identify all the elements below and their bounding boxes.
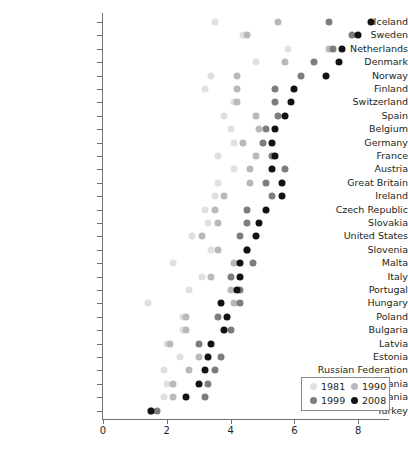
data-point xyxy=(211,206,218,213)
legend-label: 2008 xyxy=(362,396,386,406)
y-axis-tick-mark xyxy=(97,370,102,371)
data-point xyxy=(230,139,237,146)
data-point xyxy=(281,166,288,173)
x-axis-tick-mark xyxy=(167,420,168,424)
data-point xyxy=(262,206,269,213)
legend-entry-1981[interactable]: 1981 xyxy=(310,382,345,392)
y-axis-tick-mark xyxy=(97,303,102,304)
data-point xyxy=(237,273,244,280)
data-point xyxy=(253,112,260,119)
data-point xyxy=(285,45,292,52)
y-axis-tick-mark xyxy=(97,384,102,385)
data-point xyxy=(186,287,193,294)
y-axis-tick-mark xyxy=(97,330,102,331)
dot-plot-chart: IcelandSwedenNetherlandsDenmarkNorwayFin… xyxy=(0,0,408,458)
y-axis-tick-mark xyxy=(97,196,102,197)
data-point xyxy=(176,354,183,361)
y-axis-tick-mark xyxy=(97,116,102,117)
data-point xyxy=(160,367,167,374)
data-point xyxy=(272,126,279,133)
legend-label: 1990 xyxy=(362,382,386,392)
data-point xyxy=(214,220,221,227)
y-axis-tick-mark xyxy=(97,22,102,23)
data-point xyxy=(205,380,212,387)
data-point xyxy=(182,394,189,401)
y-axis-tick-mark xyxy=(97,317,102,318)
legend-label: 1999 xyxy=(321,396,345,406)
x-axis-tick-mark xyxy=(103,420,104,424)
x-axis-tick-label: 6 xyxy=(291,426,297,436)
data-point xyxy=(281,59,288,66)
data-point xyxy=(249,260,256,267)
data-point xyxy=(202,206,209,213)
legend: 1981199019992008 xyxy=(301,377,390,411)
legend-entry-1999[interactable]: 1999 xyxy=(310,396,345,406)
y-axis-tick-mark xyxy=(97,76,102,77)
x-axis-tick-label: 0 xyxy=(100,426,106,436)
data-point xyxy=(224,313,231,320)
y-axis-tick-mark xyxy=(97,129,102,130)
y-axis-tick-mark xyxy=(97,223,102,224)
y-axis-tick-mark xyxy=(97,263,102,264)
data-point xyxy=(208,273,215,280)
data-point xyxy=(208,72,215,79)
x-axis-tick-label: 2 xyxy=(164,426,170,436)
data-point xyxy=(246,166,253,173)
legend-swatch-icon xyxy=(351,383,358,390)
data-point xyxy=(221,112,228,119)
data-point xyxy=(253,59,260,66)
y-axis-tick-mark xyxy=(97,277,102,278)
data-point xyxy=(243,206,250,213)
data-point xyxy=(218,300,225,307)
data-point xyxy=(186,367,193,374)
data-point xyxy=(269,166,276,173)
y-axis-tick-mark xyxy=(97,102,102,103)
x-axis-tick-label: 4 xyxy=(227,426,233,436)
data-point xyxy=(272,86,279,93)
data-point xyxy=(227,327,234,334)
data-point xyxy=(243,220,250,227)
data-point xyxy=(202,86,209,93)
y-axis-tick-mark xyxy=(97,62,102,63)
data-point xyxy=(297,72,304,79)
legend-swatch-icon xyxy=(310,397,317,404)
y-axis-tick-mark xyxy=(97,183,102,184)
data-point xyxy=(323,72,330,79)
data-point xyxy=(160,394,167,401)
legend-entry-1990[interactable]: 1990 xyxy=(351,382,386,392)
data-point xyxy=(278,193,285,200)
y-axis-tick-mark xyxy=(97,210,102,211)
data-point xyxy=(202,394,209,401)
data-point xyxy=(310,59,317,66)
data-point xyxy=(233,72,240,79)
data-point xyxy=(147,407,154,414)
data-point xyxy=(154,407,161,414)
legend-label: 1981 xyxy=(321,382,345,392)
plot-area xyxy=(103,12,393,420)
data-point xyxy=(272,153,279,160)
y-axis-tick-mark xyxy=(97,344,102,345)
y-axis-tick-mark xyxy=(97,35,102,36)
data-point xyxy=(214,313,221,320)
data-point xyxy=(205,354,212,361)
data-point xyxy=(291,86,298,93)
data-point xyxy=(237,233,244,240)
data-point xyxy=(367,19,374,26)
data-point xyxy=(272,99,279,106)
y-axis-tick-mark xyxy=(97,49,102,50)
data-point xyxy=(214,246,221,253)
data-point xyxy=(195,354,202,361)
data-point xyxy=(170,260,177,267)
data-point xyxy=(221,327,228,334)
y-axis-tick-mark xyxy=(97,143,102,144)
y-axis-tick-mark xyxy=(97,236,102,237)
data-point xyxy=(170,394,177,401)
x-axis-tick-label: 8 xyxy=(355,426,361,436)
data-point xyxy=(246,179,253,186)
data-point xyxy=(259,139,266,146)
data-point xyxy=(233,287,240,294)
legend-entry-2008[interactable]: 2008 xyxy=(351,396,386,406)
data-point xyxy=(262,179,269,186)
data-point xyxy=(253,233,260,240)
data-point xyxy=(336,59,343,66)
